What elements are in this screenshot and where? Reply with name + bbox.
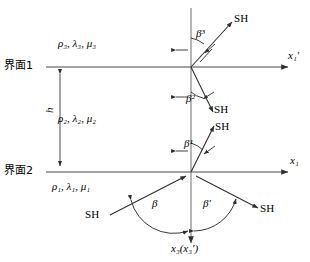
- layer-3-properties-label: ρ₃, λ₃, μ₃: [58, 38, 96, 49]
- sh-reflected-label: SH: [260, 203, 274, 214]
- sh-layer2-down-label: SH: [214, 104, 228, 115]
- figure-canvas: 界面1 界面2 ρ₃, λ₃, μ₃ ρ₂, λ₂, μ₂ ρ₁, λ₁, μ₁…: [0, 0, 310, 262]
- interface-2-label: 界面2: [4, 165, 33, 176]
- wave-diagram-svg: [0, 0, 310, 262]
- thickness-label: h: [44, 108, 55, 114]
- sh-incident-label: SH: [85, 209, 99, 220]
- sh-transmitted-top-label: SH: [234, 13, 248, 24]
- sh-layer2-down-ray: [191, 67, 213, 112]
- angle-beta2-label: β²: [186, 93, 195, 104]
- polarization-tick-l2d: [204, 146, 215, 154]
- x1-axis-label: x₁: [290, 155, 299, 166]
- angle-beta3-label: β³: [196, 28, 205, 39]
- angle-beta-incident-label: β: [152, 198, 157, 209]
- x3-axis-label: x₃(x₃′): [171, 243, 198, 254]
- layer-1-properties-label: ρ₁, λ₁, μ₁: [52, 181, 90, 192]
- angle-arc-beta-reflected: [194, 199, 236, 231]
- angle-arc-beta-incident: [131, 200, 188, 233]
- x1-prime-axis-label: x₁′: [288, 50, 299, 61]
- angle-beta-reflected-label: β′: [203, 198, 211, 209]
- angle-beta1-label: β¹: [184, 138, 193, 149]
- layer-2-properties-label: ρ₂, λ₂, μ₂: [58, 113, 96, 124]
- interface-1-label: 界面1: [4, 60, 33, 71]
- sh-incident-ray: [110, 176, 186, 215]
- sh-layer2-up-label: SH: [215, 121, 229, 132]
